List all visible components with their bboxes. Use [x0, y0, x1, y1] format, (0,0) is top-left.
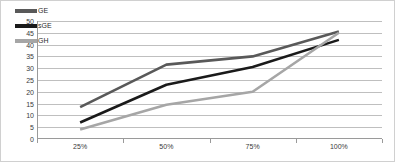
legend-swatch-icon [15, 24, 37, 28]
y-tick-label: 0 [4, 136, 34, 143]
series-line [80, 32, 339, 108]
y-tick-label: 30 [4, 65, 34, 72]
y-tick-label: 15 [4, 100, 34, 107]
x-tick-mark [382, 139, 383, 143]
legend-swatch-icon [15, 39, 37, 43]
y-tick-label: 5 [4, 124, 34, 131]
legend-label: GH [38, 37, 49, 45]
x-tick-label: 25% [73, 143, 87, 151]
x-tick-label: 100% [330, 143, 348, 151]
legend-item[interactable]: GE [15, 3, 89, 18]
chart-container: 05101520253035404550 25%50%75%100% GEsGE… [0, 0, 395, 162]
y-tick-label: 10 [4, 112, 34, 119]
legend-label: GE [38, 7, 48, 15]
x-tick-label: 75% [246, 143, 260, 151]
x-tick-label: 50% [159, 143, 173, 151]
x-axis: 25%50%75%100% [37, 143, 382, 155]
chart-legend: GEsGEGH [15, 3, 89, 48]
y-tick-label: 35 [4, 53, 34, 60]
y-tick-label: 25 [4, 77, 34, 84]
legend-item[interactable]: sGE [15, 18, 89, 33]
legend-item[interactable]: GH [15, 33, 89, 48]
y-tick-label: 20 [4, 88, 34, 95]
legend-label: sGE [38, 22, 52, 30]
series-line [80, 33, 339, 130]
series-line [80, 40, 339, 123]
legend-swatch-icon [15, 9, 37, 13]
